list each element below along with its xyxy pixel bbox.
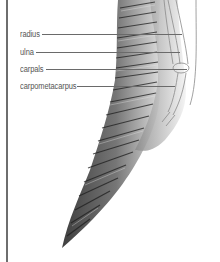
leader-line-carpals — [46, 69, 187, 70]
wing-illustration — [0, 0, 220, 262]
label-carpals: carpals — [20, 64, 43, 74]
label-carpometacarpus: carpometacarpus — [20, 81, 76, 91]
wing-feathers — [62, 0, 160, 248]
leader-line-carpometacarpus — [77, 86, 175, 87]
leader-line-ulna — [36, 52, 180, 53]
leader-line-radius — [42, 34, 182, 35]
label-ulna: ulna — [20, 47, 34, 57]
label-radius: radius — [20, 29, 40, 39]
